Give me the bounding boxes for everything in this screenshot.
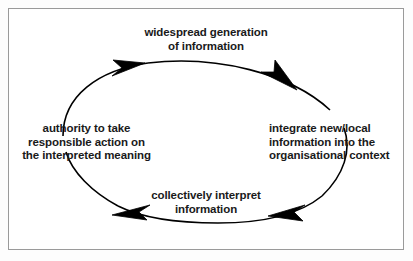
stage-label-collectively-interpret: collectively interpret information <box>126 189 286 216</box>
stage-label-line: information into the <box>269 136 390 150</box>
stage-label-authority-to-take-action: authority to take responsible action on … <box>14 122 159 163</box>
stage-label-line: authority to take <box>14 122 159 136</box>
stage-label-line: organisational context <box>269 149 390 163</box>
stage-label-widespread-generation: widespread generation of information <box>113 26 299 53</box>
stage-label-line: widespread generation <box>113 26 299 40</box>
diagram-page: widespread generation of information int… <box>0 0 413 261</box>
stage-label-integrate-new-local: integrate new/local information into the… <box>269 122 390 163</box>
stage-label-line: information <box>126 203 286 217</box>
stage-label-line: collectively interpret <box>126 189 286 203</box>
stage-label-line: responsible action on <box>14 136 159 150</box>
arc-top-right <box>148 61 330 110</box>
arrow-top-right-icon <box>261 60 297 90</box>
arrow-top-left-icon <box>112 60 145 76</box>
stage-label-line: the interpreted meaning <box>14 149 159 163</box>
stage-label-line: of information <box>113 40 299 54</box>
stage-label-line: integrate new/local <box>269 122 390 136</box>
